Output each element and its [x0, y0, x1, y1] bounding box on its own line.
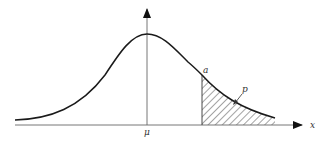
x-axis-label: x [310, 120, 315, 130]
shaded-tail-region [202, 75, 275, 125]
tail-probability-label: p [242, 84, 248, 94]
threshold-label: a [203, 65, 208, 75]
mean-label: μ [144, 127, 150, 137]
normal-distribution-diagram: μ a p x [0, 0, 321, 141]
